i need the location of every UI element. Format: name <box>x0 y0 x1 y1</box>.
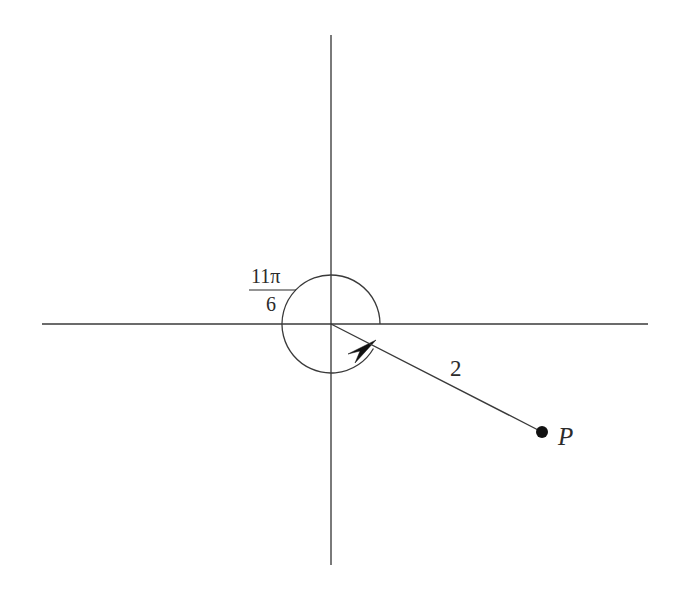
terminal-ray <box>331 324 542 432</box>
diagram-canvas: P 2 11π 6 <box>0 0 674 606</box>
point-p-label: P <box>557 423 573 450</box>
point-p-dot <box>536 426 548 438</box>
ray-length-label: 2 <box>450 356 462 381</box>
angle-measure-label: 11π 6 <box>249 265 296 315</box>
angle-label-denominator: 6 <box>266 293 276 315</box>
polar-angle-diagram: P 2 11π 6 <box>0 0 674 606</box>
angle-label-numerator: 11π <box>251 265 280 287</box>
